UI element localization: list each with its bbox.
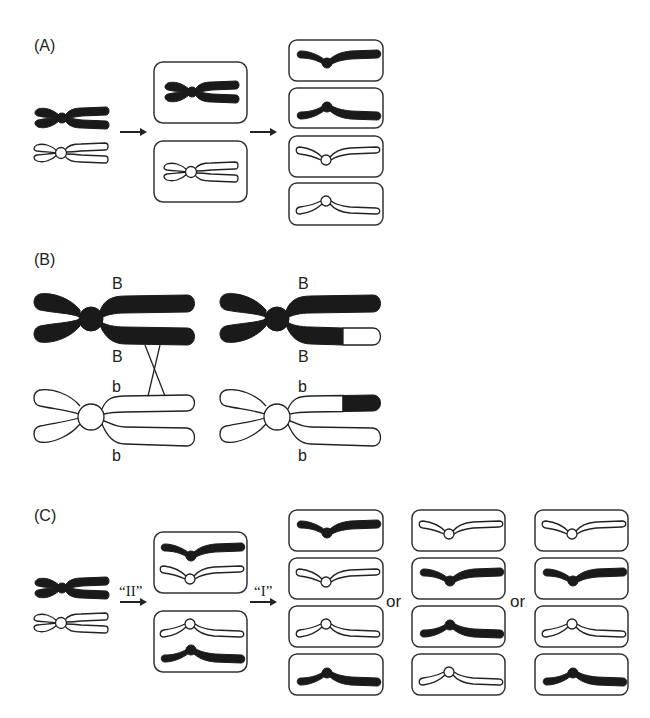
panel-b-label: (B) [34, 251, 55, 268]
or-label: or [386, 592, 401, 611]
gamete-column [289, 40, 383, 225]
arrow-icon [250, 128, 277, 136]
allele-label-B: B [112, 275, 123, 292]
allele-label-B: B [112, 348, 123, 365]
homolog-pair-before: B B b b [34, 275, 195, 464]
arrow-icon [250, 598, 277, 606]
outcome-column-1 [289, 510, 383, 695]
allele-label-B: B [298, 275, 309, 292]
allele-label-b: b [298, 378, 307, 395]
allele-label-b: b [112, 378, 121, 395]
outcome-column-3 [535, 510, 628, 695]
outcome-column-2 [412, 510, 505, 695]
bivalent-chromosomes [34, 107, 109, 163]
or-label: or [510, 592, 525, 611]
homolog-pair-after: B B b b [220, 275, 381, 464]
stage-label-meiosis-ii: “II” [119, 583, 142, 599]
meiosis-figure: (A) [0, 0, 650, 718]
panel-c-label: (C) [34, 507, 56, 524]
panel-c: (C) “II” “I” [34, 507, 628, 695]
allele-label-b: b [298, 447, 307, 464]
panel-b: (B) B B b b [34, 251, 381, 464]
panel-a-label: (A) [34, 37, 55, 54]
first-division-products [154, 532, 247, 672]
stage-label-meiosis-i: “I” [254, 583, 272, 599]
panel-a: (A) [34, 37, 383, 225]
allele-label-B: B [298, 348, 309, 365]
arrow-icon [120, 128, 147, 136]
bivalent-chromosomes [34, 577, 109, 633]
allele-label-b: b [112, 447, 121, 464]
arrow-icon [120, 598, 147, 606]
meiosis-i-products [154, 62, 247, 202]
